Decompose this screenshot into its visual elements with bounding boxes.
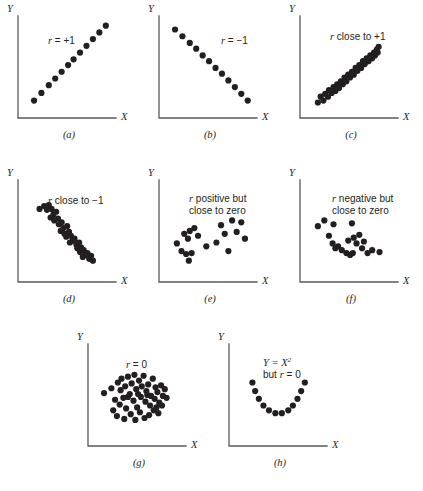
data-point (361, 238, 367, 244)
data-point (103, 23, 109, 29)
x-axis-label-e: X (261, 275, 269, 286)
data-point (345, 237, 351, 243)
data-point (376, 249, 382, 255)
scatter-panel-f: YXr negative butclose to zero(f) (282, 164, 423, 328)
data-points-h (249, 379, 308, 416)
panel-caption-a: (a) (63, 129, 76, 141)
y-axis-label-a: Y (7, 3, 14, 14)
annotation-f-line0: r negative but (332, 193, 394, 204)
data-point (83, 43, 89, 49)
data-point (349, 220, 355, 226)
y-axis-label-h: Y (218, 331, 225, 342)
data-point (195, 233, 201, 239)
y-axis-label-d: Y (7, 167, 14, 178)
correlation-scatter-figure: YXr = +1(a)YXr = −1(b)YXr close to +1(c)… (0, 0, 423, 491)
data-point (129, 380, 135, 386)
data-point (375, 49, 381, 55)
panel-caption-h: (h) (274, 457, 287, 469)
data-point (256, 396, 262, 402)
data-point (155, 410, 161, 416)
data-point (131, 372, 137, 378)
data-points-f (315, 217, 383, 258)
data-point (53, 209, 59, 215)
data-point (118, 376, 124, 382)
scatter-panel-e: YXr positive butclose to zero(e) (141, 164, 282, 328)
data-point (212, 65, 218, 71)
annotation-f-line1: close to zero (332, 205, 389, 216)
data-point (150, 376, 156, 382)
data-point (183, 251, 189, 257)
x-axis-label-a: X (120, 111, 128, 122)
data-point (172, 26, 178, 32)
data-point (279, 410, 285, 416)
data-point (353, 240, 359, 246)
data-point (203, 243, 209, 249)
data-point (302, 379, 308, 385)
data-point (114, 413, 120, 419)
data-point (130, 398, 136, 404)
annotation-g-line0: r = 0 (126, 359, 147, 370)
data-point (330, 221, 336, 227)
data-point (159, 402, 165, 408)
y-axis-label-g: Y (77, 331, 84, 342)
data-points-d (36, 202, 96, 264)
data-point (376, 44, 382, 50)
x-axis-label-c: X (402, 111, 410, 122)
data-point (369, 247, 375, 253)
data-point (31, 97, 37, 103)
data-point (141, 373, 147, 379)
data-point (225, 77, 231, 83)
data-point (101, 390, 107, 396)
y-axis-label-f: Y (289, 167, 296, 178)
panel-caption-e: (e) (204, 293, 216, 305)
data-point (232, 84, 238, 90)
data-point (234, 229, 240, 235)
data-point (315, 99, 321, 105)
x-axis-label-g: X (190, 439, 198, 450)
x-axis-label-h: X (331, 439, 339, 450)
data-point (144, 392, 150, 398)
data-point (154, 389, 160, 395)
data-point (117, 401, 123, 407)
data-point (191, 225, 197, 231)
annotation-b-line0: r = −1 (221, 35, 248, 46)
data-point (71, 56, 77, 62)
x-axis-label-d: X (120, 275, 128, 286)
scatter-panel-d: YXr close to −1(d) (0, 164, 141, 328)
data-point (285, 407, 291, 413)
data-point (321, 217, 327, 223)
data-points-c (315, 44, 382, 106)
data-point (38, 90, 44, 96)
data-point (121, 416, 127, 422)
data-point (90, 36, 96, 42)
data-point (179, 33, 185, 39)
data-point (52, 75, 58, 81)
data-point (266, 407, 272, 413)
data-point (260, 402, 266, 408)
data-point (189, 250, 195, 256)
data-point (229, 217, 235, 223)
data-point (298, 388, 304, 394)
y-axis-label-c: Y (289, 3, 296, 14)
data-point (359, 245, 365, 251)
data-point (65, 62, 71, 68)
data-point (290, 402, 296, 408)
data-point (164, 395, 170, 401)
data-point (242, 236, 248, 242)
panel-caption-f: (f) (346, 293, 356, 305)
data-point (123, 405, 129, 411)
data-point (112, 397, 118, 403)
data-point (59, 219, 65, 225)
data-point (46, 82, 52, 88)
data-point (77, 49, 83, 55)
scatter-panel-h: YXY = X2but r = 0(h) (211, 328, 352, 491)
data-point (238, 219, 244, 225)
data-point (238, 91, 244, 97)
y-axis-label-b: Y (148, 3, 155, 14)
data-point (294, 396, 300, 402)
data-point (326, 233, 332, 239)
data-point (252, 388, 258, 394)
annotation-d-line0: r close to −1 (48, 195, 104, 206)
data-point (187, 40, 193, 46)
annotation-e-line0: r positive but (189, 193, 247, 204)
